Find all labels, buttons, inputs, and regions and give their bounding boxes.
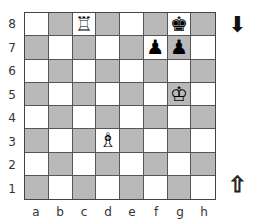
square-f5[interactable] [144, 83, 168, 106]
square-d8[interactable] [96, 13, 120, 36]
square-b4[interactable] [49, 106, 73, 129]
square-a4[interactable] [25, 106, 49, 129]
square-b3[interactable] [49, 129, 73, 152]
square-g8[interactable]: ♚ [168, 13, 192, 36]
square-c1[interactable] [73, 176, 97, 199]
rank-label: 1 [6, 182, 18, 196]
piece-icon: ♟ [170, 37, 188, 57]
chess-board: ♖♚♟♟♔♗ [24, 12, 216, 200]
square-f4[interactable] [144, 106, 168, 129]
square-d1[interactable] [96, 176, 120, 199]
rank-label: 7 [6, 41, 18, 55]
square-a2[interactable] [25, 153, 49, 176]
square-c6[interactable] [73, 60, 97, 83]
white-to-move-arrow-icon: ⇧ [228, 174, 244, 196]
piece-icon: ♟ [146, 37, 164, 57]
square-d6[interactable] [96, 60, 120, 83]
square-d2[interactable] [96, 153, 120, 176]
square-g6[interactable] [168, 60, 192, 83]
square-g5[interactable]: ♔ [168, 83, 192, 106]
rank-label: 6 [6, 64, 18, 78]
square-b1[interactable] [49, 176, 73, 199]
square-b5[interactable] [49, 83, 73, 106]
square-h5[interactable] [191, 83, 215, 106]
square-b7[interactable] [49, 36, 73, 59]
square-d3[interactable]: ♗ [96, 129, 120, 152]
square-c3[interactable] [73, 129, 97, 152]
square-h6[interactable] [191, 60, 215, 83]
square-f2[interactable] [144, 153, 168, 176]
square-h3[interactable] [191, 129, 215, 152]
square-h7[interactable] [191, 36, 215, 59]
file-label: g [168, 205, 192, 219]
file-label: c [72, 205, 96, 219]
square-b6[interactable] [49, 60, 73, 83]
square-f8[interactable] [144, 13, 168, 36]
rank-label: 5 [6, 88, 18, 102]
square-f7[interactable]: ♟ [144, 36, 168, 59]
rank-label: 2 [6, 158, 18, 172]
square-h8[interactable] [191, 13, 215, 36]
square-f1[interactable] [144, 176, 168, 199]
file-label: e [120, 205, 144, 219]
rank-label: 3 [6, 135, 18, 149]
file-label: h [192, 205, 216, 219]
rank-label: 8 [6, 17, 18, 31]
square-a5[interactable] [25, 83, 49, 106]
file-label: f [144, 205, 168, 219]
square-g4[interactable] [168, 106, 192, 129]
square-b2[interactable] [49, 153, 73, 176]
square-c7[interactable] [73, 36, 97, 59]
square-e4[interactable] [120, 106, 144, 129]
square-e3[interactable] [120, 129, 144, 152]
square-h1[interactable] [191, 176, 215, 199]
square-h4[interactable] [191, 106, 215, 129]
square-f3[interactable] [144, 129, 168, 152]
square-a8[interactable] [25, 13, 49, 36]
square-a3[interactable] [25, 129, 49, 152]
square-g3[interactable] [168, 129, 192, 152]
piece-icon: ♖ [75, 14, 93, 34]
file-label: d [96, 205, 120, 219]
square-g1[interactable] [168, 176, 192, 199]
piece-icon: ♔ [170, 84, 188, 104]
square-e7[interactable] [120, 36, 144, 59]
square-e8[interactable] [120, 13, 144, 36]
file-label: a [24, 205, 48, 219]
file-label: b [48, 205, 72, 219]
piece-icon: ♚ [170, 14, 188, 34]
square-e2[interactable] [120, 153, 144, 176]
square-d5[interactable] [96, 83, 120, 106]
square-c4[interactable] [73, 106, 97, 129]
square-a7[interactable] [25, 36, 49, 59]
square-h2[interactable] [191, 153, 215, 176]
square-g7[interactable]: ♟ [168, 36, 192, 59]
square-g2[interactable] [168, 153, 192, 176]
square-d7[interactable] [96, 36, 120, 59]
square-c5[interactable] [73, 83, 97, 106]
square-e1[interactable] [120, 176, 144, 199]
square-e6[interactable] [120, 60, 144, 83]
square-c8[interactable]: ♖ [73, 13, 97, 36]
rank-label: 4 [6, 111, 18, 125]
square-d4[interactable] [96, 106, 120, 129]
square-f6[interactable] [144, 60, 168, 83]
square-b8[interactable] [49, 13, 73, 36]
black-side-arrow-icon: ⬇ [228, 14, 244, 36]
square-a6[interactable] [25, 60, 49, 83]
square-e5[interactable] [120, 83, 144, 106]
square-c2[interactable] [73, 153, 97, 176]
square-a1[interactable] [25, 176, 49, 199]
piece-icon: ♗ [99, 130, 117, 150]
